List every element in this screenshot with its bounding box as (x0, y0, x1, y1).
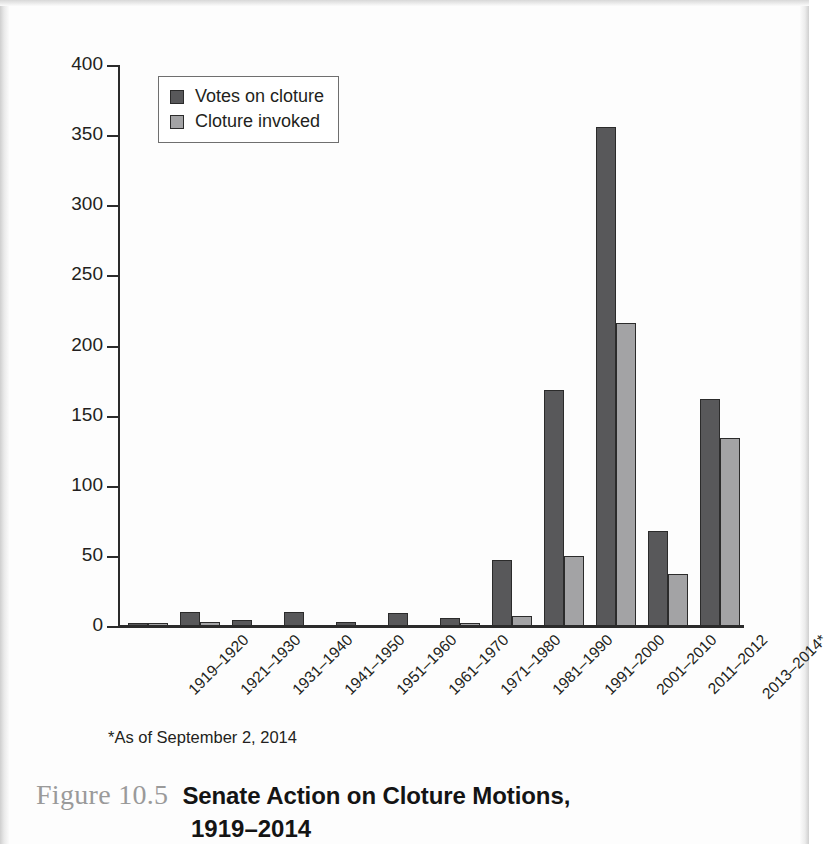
y-tick-mark (107, 205, 118, 207)
bar-group (128, 623, 168, 626)
page-edge-left (0, 0, 9, 844)
bar-group (180, 612, 220, 626)
bar-votes-on-cloture (700, 399, 720, 626)
bar-cloture-invoked (512, 616, 532, 626)
x-axis-category-labels: 1919–19201921–19301931–19401941–19501951… (118, 631, 758, 731)
y-tick-label: 0 (48, 614, 103, 636)
y-tick-label: 50 (48, 544, 103, 566)
y-tick-mark (107, 626, 118, 628)
bar-group (648, 531, 688, 626)
y-tick-mark (107, 275, 118, 277)
bar-group (596, 127, 636, 626)
legend-swatch-icon-cloture-invoked (170, 115, 184, 129)
y-tick-mark (107, 135, 118, 137)
figure-caption: Figure 10.5 Senate Action on Cloture Mot… (36, 779, 796, 843)
bar-cloture-invoked (200, 622, 220, 626)
bar-votes-on-cloture (336, 622, 356, 626)
bar-group (544, 390, 584, 626)
y-tick-mark (107, 486, 118, 488)
bar-votes-on-cloture (284, 612, 304, 626)
chart-legend: Votes on cloture Cloture invoked (158, 76, 339, 143)
bar-votes-on-cloture (388, 613, 408, 626)
bar-cloture-invoked (564, 556, 584, 626)
figure-title-line-1: Senate Action on Cloture Motions, (182, 782, 570, 810)
bar-group (700, 399, 740, 626)
y-tick-mark (107, 556, 118, 558)
y-tick-label: 150 (48, 404, 103, 426)
bar-votes-on-cloture (232, 620, 252, 626)
y-tick-label: 350 (48, 123, 103, 145)
bar-votes-on-cloture (128, 623, 148, 626)
figure-title-line-2: 1919–2014 (191, 815, 796, 843)
bar-votes-on-cloture (440, 618, 460, 626)
legend-item-cloture-invoked: Cloture invoked (170, 109, 324, 134)
y-tick-label: 200 (48, 334, 103, 356)
figure-number: Figure 10.5 (36, 779, 168, 811)
y-tick-label: 300 (48, 193, 103, 215)
page-edge-top (0, 0, 809, 6)
bar-group (232, 620, 252, 626)
legend-item-votes-on-cloture: Votes on cloture (170, 84, 324, 109)
y-tick-mark (107, 346, 118, 348)
bar-votes-on-cloture (492, 560, 512, 626)
y-tick-label: 250 (48, 263, 103, 285)
bar-chart-plot-area: 050100150200250300350400 (118, 65, 742, 626)
y-tick-label: 400 (48, 53, 103, 75)
bar-group (336, 622, 356, 626)
y-axis-line (118, 65, 120, 628)
legend-label-cloture-invoked: Cloture invoked (195, 111, 320, 132)
legend-swatch-icon-votes-on-cloture (170, 90, 184, 104)
bar-group (440, 618, 480, 626)
bar-cloture-invoked (668, 574, 688, 626)
bar-votes-on-cloture (596, 127, 616, 626)
bar-cloture-invoked (720, 438, 740, 626)
bar-group (284, 612, 304, 626)
bar-cloture-invoked (616, 323, 636, 626)
bar-votes-on-cloture (180, 612, 200, 626)
bar-group (492, 560, 532, 626)
bar-group (388, 613, 408, 626)
y-tick-mark (107, 65, 118, 67)
figure-footnote: *As of September 2, 2014 (108, 728, 297, 747)
y-tick-mark (107, 416, 118, 418)
legend-label-votes-on-cloture: Votes on cloture (195, 86, 324, 107)
page-edge-right (800, 0, 809, 844)
y-tick-label: 100 (48, 474, 103, 496)
bar-cloture-invoked (460, 623, 480, 626)
bar-votes-on-cloture (544, 390, 564, 626)
bar-votes-on-cloture (648, 531, 668, 626)
bar-cloture-invoked (148, 623, 168, 626)
